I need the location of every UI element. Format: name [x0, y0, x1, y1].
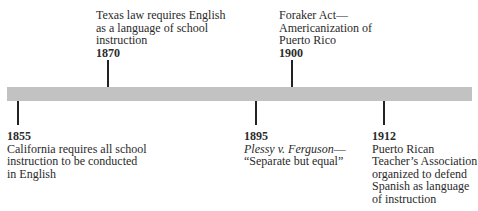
tick-1912 [383, 101, 385, 125]
event-1855-year: 1855 [7, 130, 147, 143]
timeline-bar [7, 87, 472, 101]
tick-1870 [107, 60, 109, 87]
tick-1855 [17, 101, 19, 125]
event-1870: Texas law requires English as a language… [96, 9, 225, 59]
event-1855-line-3: in English [7, 168, 147, 181]
event-1912-year: 1912 [372, 130, 477, 143]
event-1900-line-3: Puerto Rico [279, 34, 372, 47]
event-1912-line-2: Teacher’s Association [372, 155, 477, 168]
event-1912-line-4: Spanish as language [372, 180, 477, 193]
event-1855: 1855 California requires all school inst… [7, 130, 147, 180]
event-1900: Foraker Act— Americanization of Puerto R… [279, 9, 372, 59]
event-1870-line-3: instruction [96, 34, 225, 47]
event-1870-line-1: Texas law requires English [96, 9, 225, 22]
tick-1895 [255, 101, 257, 125]
event-1912-line-5: of instruction [372, 193, 477, 206]
event-1895-line-2: “Separate but equal” [244, 155, 346, 168]
event-1900-year: 1900 [279, 47, 372, 60]
event-1912: 1912 Puerto Rican Teacher’s Association … [372, 130, 477, 205]
event-1895: 1895 Plessy v. Ferguson— “Separate but e… [244, 130, 346, 168]
event-1855-line-2: instruction to be conducted [7, 155, 147, 168]
event-1870-year: 1870 [96, 47, 225, 60]
event-1900-line-1: Foraker Act— [279, 9, 372, 22]
tick-1900 [291, 60, 293, 87]
